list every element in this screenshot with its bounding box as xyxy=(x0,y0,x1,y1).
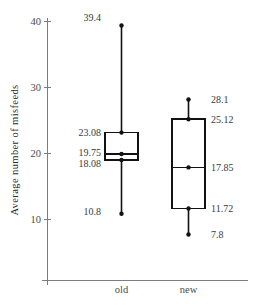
chart-canvas: 40 30 20 10 Average number of misfeeds xyxy=(0,0,255,306)
min-dot-new xyxy=(186,232,190,236)
value-label-old-q3: 23.08 xyxy=(79,127,102,138)
value-label-old-q1: 18.08 xyxy=(79,158,102,169)
q1-dot-new xyxy=(186,206,190,210)
median-dot-old xyxy=(119,152,123,156)
y-tick-label-30: 30 xyxy=(31,82,42,93)
box-group-new xyxy=(172,97,205,236)
x-tick-label-new: new xyxy=(180,284,198,295)
plot-area: 40 30 20 10 Average number of misfeeds xyxy=(0,0,255,306)
min-dot-old xyxy=(119,212,123,216)
value-label-new-min: 7.8 xyxy=(211,229,224,240)
y-tick-label-40: 40 xyxy=(31,16,42,27)
boxplot-chart: 40 30 20 10 Average number of misfeeds xyxy=(0,0,255,306)
value-label-new-q3: 25.12 xyxy=(211,114,234,125)
max-dot-old xyxy=(119,23,123,27)
box-group-old xyxy=(105,23,138,216)
q1-dot-old xyxy=(119,158,123,162)
box-new xyxy=(172,119,205,208)
value-label-new-max: 28.1 xyxy=(211,94,229,105)
value-label-old-median: 19.75 xyxy=(79,147,102,158)
value-label-old-min: 10.8 xyxy=(84,206,102,217)
max-dot-new xyxy=(186,97,190,101)
y-tick-label-20: 20 xyxy=(31,148,42,159)
median-dot-new xyxy=(186,165,190,169)
value-label-new-q1: 11.72 xyxy=(211,203,233,214)
q3-dot-old xyxy=(119,130,123,134)
value-label-old-max: 39.4 xyxy=(84,12,102,23)
x-tick-label-old: old xyxy=(115,284,129,295)
y-axis-title: Average number of misfeeds xyxy=(9,84,20,215)
value-label-new-median: 17.85 xyxy=(211,162,234,173)
y-tick-label-10: 10 xyxy=(31,214,42,225)
q3-dot-new xyxy=(186,117,190,121)
